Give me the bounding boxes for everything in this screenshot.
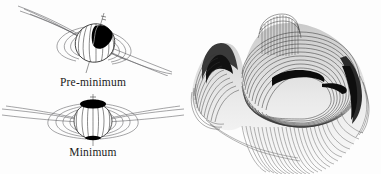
minimum-label: Minimum xyxy=(0,146,186,158)
surface-plot-panel xyxy=(186,0,381,174)
surface-plot-svg xyxy=(186,0,381,174)
pre-minimum-label: Pre-minimum xyxy=(0,76,186,88)
magnetic-field-diagrams-panel: Pre-minimum xyxy=(0,0,186,174)
polar-cap-dark xyxy=(80,99,106,108)
pre-minimum-diagram xyxy=(0,0,186,76)
minimum-diagram xyxy=(0,92,186,148)
surface-contour-lines xyxy=(186,0,381,174)
star-sphere-aligned xyxy=(74,99,112,140)
polar-cap-bottom xyxy=(85,136,101,140)
figure-container: Pre-minimum xyxy=(0,0,381,174)
